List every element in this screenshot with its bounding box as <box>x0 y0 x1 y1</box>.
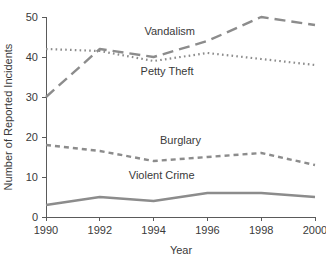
chart-canvas: 01020304050 199019921994199619982000 Van… <box>0 0 326 260</box>
x-tick-label: 1992 <box>88 224 112 236</box>
y-axis-title: Number of Reported Incidents <box>2 43 14 190</box>
y-tick-label: 40 <box>26 51 38 63</box>
x-tick-label: 1998 <box>249 224 273 236</box>
series-label-vandalism: Vandalism <box>144 25 195 37</box>
series-label-petty-theft: Petty Theft <box>141 65 194 77</box>
x-tick-label: 2000 <box>303 224 326 236</box>
y-tick-label: 0 <box>32 211 38 223</box>
y-tick-label: 30 <box>26 91 38 103</box>
y-tick-group: 01020304050 <box>26 11 46 223</box>
line-chart: 01020304050 199019921994199619982000 Van… <box>0 0 326 260</box>
series-line-burglary <box>46 145 315 165</box>
series-line-violent-crime <box>46 193 315 205</box>
x-tick-group: 199019921994199619982000 <box>34 217 326 236</box>
x-tick-label: 1996 <box>195 224 219 236</box>
x-axis-group: 199019921994199619982000 <box>34 217 326 236</box>
y-tick-label: 50 <box>26 11 38 23</box>
series-label-burglary: Burglary <box>160 134 201 146</box>
y-tick-label: 20 <box>26 131 38 143</box>
x-tick-label: 1990 <box>34 224 58 236</box>
x-tick-label: 1994 <box>141 224 165 236</box>
x-axis-title: Year <box>170 244 193 256</box>
y-axis-group: 01020304050 <box>26 11 46 223</box>
series-label-violent-crime: Violent Crime <box>129 169 195 181</box>
y-tick-label: 10 <box>26 171 38 183</box>
